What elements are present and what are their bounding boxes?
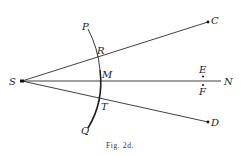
label-f: F xyxy=(198,86,207,97)
arc-pq-lower xyxy=(88,70,101,128)
point-e-dot xyxy=(202,76,204,78)
point-s-dot xyxy=(20,80,24,83)
line-sd xyxy=(22,81,208,122)
geometry-figure: S C D N E F P Q R M T Fig. 2d. xyxy=(0,0,241,155)
label-d: D xyxy=(210,117,219,128)
label-p: P xyxy=(81,21,89,32)
label-s: S xyxy=(9,76,16,87)
label-q: Q xyxy=(81,125,89,136)
label-e: E xyxy=(198,64,207,75)
label-c: C xyxy=(211,15,219,26)
figure-caption: Fig. 2d. xyxy=(106,141,134,150)
label-t: T xyxy=(101,101,109,112)
label-n: N xyxy=(223,76,234,87)
label-m: M xyxy=(101,69,113,80)
label-r: R xyxy=(96,45,105,56)
point-d-dot xyxy=(207,121,210,124)
line-sc xyxy=(22,22,208,81)
point-c-dot xyxy=(207,21,210,24)
